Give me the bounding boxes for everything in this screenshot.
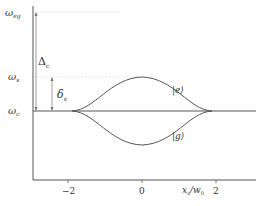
- arrow-head-down-s: [51, 107, 54, 111]
- omega-c-label: ωc: [8, 105, 20, 117]
- x-tick-label-0: 0: [139, 186, 145, 196]
- x-tick-label-2: 2: [213, 186, 219, 196]
- excited-state-label: |e⟩: [172, 85, 184, 96]
- arrow-head-down: [35, 107, 38, 111]
- energy-level-diagram: ωeg ωs ωc Δc δs |e⟩ |g⟩ −2 0 2 xa/w0: [0, 0, 265, 206]
- x-tick-label-minus2: −2: [62, 186, 75, 196]
- delta-c-label: Δc: [38, 55, 50, 69]
- arrow-head-up: [35, 12, 38, 16]
- ground-state-curve: [72, 111, 212, 145]
- ground-state-label: |g⟩: [172, 131, 184, 142]
- omega-eg-label: ωeg: [5, 7, 21, 20]
- omega-s-label: ωs: [8, 71, 19, 83]
- x-axis-label: xa/w0: [182, 185, 204, 196]
- arrow-head-up-s: [51, 77, 54, 81]
- excited-state-curve: [72, 77, 212, 111]
- delta-s-label: δs: [57, 88, 67, 102]
